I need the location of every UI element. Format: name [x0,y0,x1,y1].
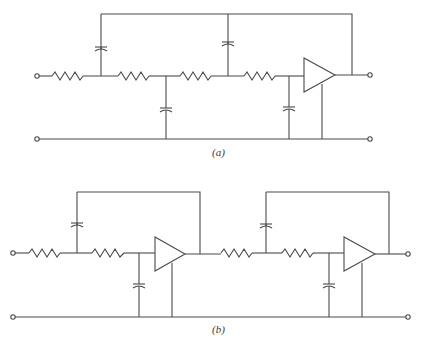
resistor-r3-a [180,72,211,80]
capacitor-c1-a [95,14,107,76]
feedback-line-2-b [266,192,389,254]
capacitor-c2-b [133,253,145,317]
circuit-diagram [0,0,424,349]
capacitor-c4-b [323,253,335,317]
ground-terminal-out-a [368,137,372,141]
resistor-r2-b [92,249,124,257]
resistor-r4-a [244,72,275,80]
ground-terminal-out-b [406,315,410,319]
amplifier-a [304,58,335,92]
caption-a: (a) [212,146,225,158]
capacitor-c2-a [160,76,172,139]
capacitor-c1-b [71,192,83,253]
ground-terminal-in-a [35,137,39,141]
resistor-r3-b [221,249,252,257]
capacitor-c3-a [222,14,234,76]
input-terminal-b [11,251,15,255]
output-terminal-a [368,73,372,77]
feedback-line-1-b [77,192,200,254]
ground-terminal-in-b [11,315,15,319]
resistor-r1-a [52,72,83,80]
capacitor-c4-a [283,76,295,139]
circuit-b [11,192,410,319]
capacitor-c3-b [260,192,272,253]
input-terminal-a [35,74,39,78]
circuit-a [35,14,372,141]
output-terminal-b [406,252,410,256]
amplifier-2-b [344,237,375,271]
caption-b: (b) [212,323,225,335]
resistor-r2-a [118,72,149,80]
amplifier-1-b [155,237,185,271]
resistor-r4-b [282,249,313,257]
resistor-r1-b [29,249,60,257]
